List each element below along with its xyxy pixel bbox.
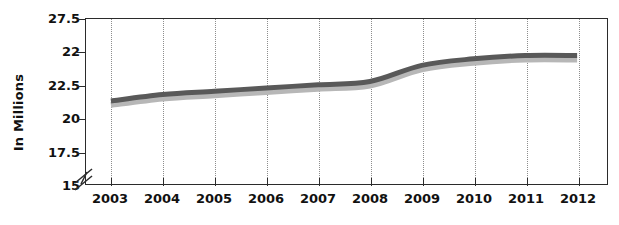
plot-area [85,18,608,185]
y-axis-tick-mark [77,119,86,120]
x-axis-tick-label: 2004 [144,191,180,206]
x-axis-tick-label: 2011 [508,191,544,206]
y-axis-tick-labels: 27.52222.52017.515 [20,0,80,225]
y-axis-tick-label: 27.5 [20,11,80,26]
x-axis-tick-label: 2003 [92,191,128,206]
data-series-line [86,19,607,184]
x-axis-tick-label: 2008 [352,191,388,206]
y-axis-tick-label: 20 [20,111,80,126]
y-axis-tick-mark [77,52,86,53]
x-axis-tick-label: 2010 [456,191,492,206]
y-axis-tick-mark [77,19,86,20]
x-axis-tick-label: 2005 [196,191,232,206]
y-axis-tick-label: 22 [20,44,80,59]
x-axis-tick-label: 2009 [404,191,440,206]
line-chart: In Millions 27.52222.52017.515 200320042… [0,0,619,225]
x-axis-tick-label: 2007 [300,191,336,206]
x-axis-tick-label: 2006 [248,191,284,206]
y-axis-tick-label: 17.5 [20,144,80,159]
x-axis-tick-label: 2012 [560,191,596,206]
y-axis-tick-label: 22.5 [20,77,80,92]
y-axis-tick-mark [77,86,86,87]
y-axis-tick-label: 15 [20,178,80,193]
y-axis-tick-mark [77,153,86,154]
axis-break-icon [72,166,106,192]
x-axis-tick-labels: 2003200420052006200720082009201020112012 [85,191,608,219]
